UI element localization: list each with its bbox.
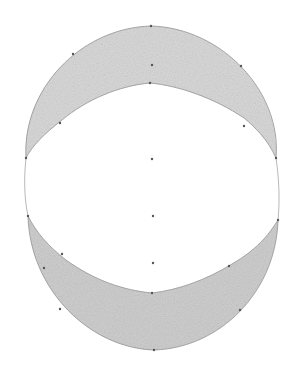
construction-point	[27, 215, 29, 217]
construction-point	[239, 309, 241, 311]
construction-point	[228, 265, 230, 267]
construction-point	[61, 253, 63, 255]
construction-point	[25, 157, 27, 159]
construction-point	[150, 25, 152, 27]
construction-point	[275, 157, 277, 159]
construction-point	[59, 308, 61, 310]
crescent-drawing	[0, 0, 302, 376]
construction-point	[152, 215, 154, 217]
construction-point	[151, 158, 153, 160]
construction-point	[151, 64, 153, 66]
construction-point	[72, 53, 74, 55]
construction-point	[152, 262, 154, 264]
construction-point	[59, 122, 61, 124]
construction-point	[149, 82, 151, 84]
construction-point	[243, 125, 245, 127]
construction-point	[240, 65, 242, 67]
construction-point	[277, 219, 279, 221]
construction-point	[151, 292, 153, 294]
construction-point	[43, 267, 45, 269]
construction-point	[153, 349, 155, 351]
